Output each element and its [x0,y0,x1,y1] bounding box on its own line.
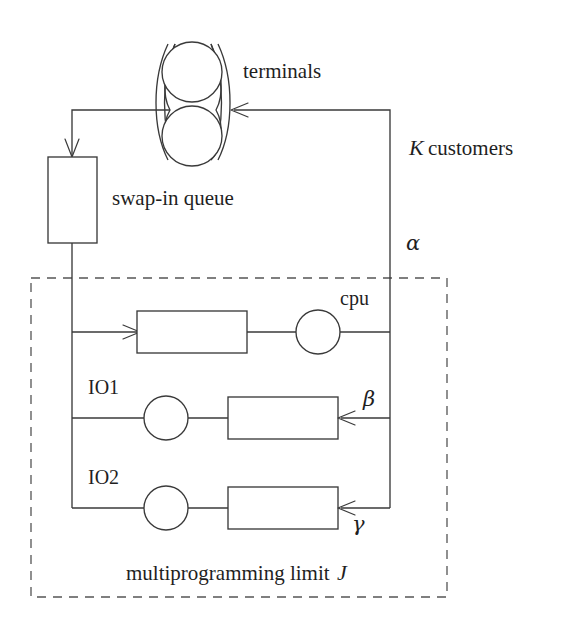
k-customers-label: customers [428,136,513,160]
cpu-queue-box [137,311,247,353]
swap-in-queue-node [48,157,97,243]
gamma-rate-label: γ [352,512,365,536]
cpu-label: cpu [340,287,369,310]
queueing-network-diagram: terminals swap-in queue cpu [0,0,585,642]
mpl-caption-text: multiprogramming limit [126,561,330,585]
swap-in-queue-label: swap-in queue [112,186,234,210]
alpha-rate-label: α [406,231,420,255]
io1-station [72,396,390,440]
cpu-server-circle [296,310,340,354]
io2-server-circle [144,486,188,530]
io1-server-circle [144,396,188,440]
k-symbol-label: K [408,135,425,160]
io2-station [72,486,390,530]
terminals-label: terminals [243,59,321,83]
terminals-node [156,42,230,166]
io2-queue-box [228,487,338,529]
flow-terminals-to-swap-in [65,110,170,157]
return-bus-line [234,110,390,508]
diagram-canvas: terminals swap-in queue cpu [0,0,585,642]
io1-label: IO1 [88,376,119,398]
cpu-station [72,310,390,354]
mpl-caption-symbol: J [337,560,348,585]
io1-queue-box [228,397,338,439]
terminal-circle-lower [162,106,222,166]
beta-rate-label: β [362,387,375,411]
flow-terminals-to-swap-in-line [72,110,170,155]
terminal-circle-upper [162,42,222,102]
io2-label: IO2 [88,466,119,488]
